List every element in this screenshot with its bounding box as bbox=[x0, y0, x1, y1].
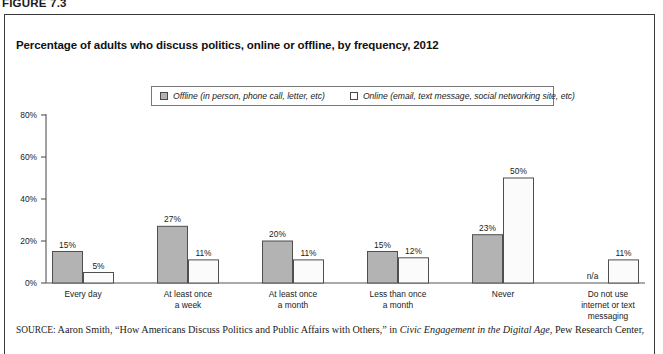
source-text-before: Aaron Smith, “How Americans Discuss Poli… bbox=[56, 324, 400, 335]
source-publication-title: Civic Engagement in the Digital Age bbox=[400, 324, 550, 335]
chart-title: Percentage of adults who discuss politic… bbox=[16, 39, 439, 51]
legend-swatch-online-icon bbox=[350, 92, 358, 100]
figure-panel: Percentage of adults who discuss politic… bbox=[4, 14, 655, 354]
legend-item-online: Online (email, text message, social netw… bbox=[350, 91, 575, 101]
legend-label-offline: Offline (in person, phone call, letter, … bbox=[173, 91, 325, 101]
source-note: SOURCE: Aaron Smith, “How Americans Disc… bbox=[16, 324, 644, 335]
source-kicker: SOURCE: bbox=[16, 325, 56, 335]
legend-swatch-offline-icon bbox=[160, 92, 168, 100]
figure-number: FIGURE 7.3 bbox=[2, 0, 67, 9]
legend-label-online: Online (email, text message, social netw… bbox=[363, 91, 575, 101]
legend-item-offline: Offline (in person, phone call, letter, … bbox=[160, 91, 325, 101]
source-text-after: , Pew Research Center, bbox=[550, 324, 644, 335]
chart-legend: Offline (in person, phone call, letter, … bbox=[151, 86, 554, 106]
